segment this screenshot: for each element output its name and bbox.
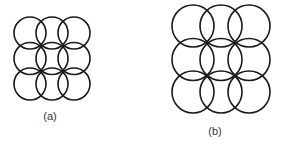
circle-r2-c2 [200,39,242,81]
circle-r3-c1 [172,71,214,113]
figure-label-b: (b) [208,125,221,137]
circle-grid-b [172,5,270,113]
diagram-canvas: (a) (b) [0,0,286,152]
circle-r2-c1 [172,39,214,81]
circle-r3-c3 [58,68,90,100]
circle-r2-c3 [228,39,270,81]
circle-grid-a [14,17,90,100]
circle-r1-c1 [172,5,214,47]
figure-label-a: (a) [43,110,56,122]
circle-r1-c2 [200,5,242,47]
circle-r1-c3 [58,17,90,49]
circle-r3-c2 [200,71,242,113]
circle-r1-c3 [228,5,270,47]
circle-r2-c3 [58,43,90,75]
circle-r3-c3 [228,71,270,113]
